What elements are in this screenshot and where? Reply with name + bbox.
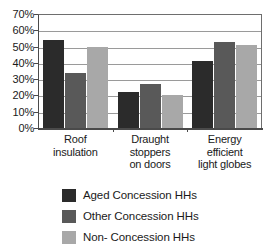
legend-label: Other Concession HHs	[83, 210, 199, 223]
y-axis-tick-label: 40%	[0, 57, 34, 68]
x-axis-label-line: insulation	[38, 146, 113, 159]
y-axis-tick-label: 30%	[0, 74, 34, 85]
y-axis-tick-label: 60%	[0, 25, 34, 36]
x-axis-label-line: stoppers	[113, 146, 188, 159]
bar-chart: 70%60%50%40%30%20%10%0% RoofinsulationDr…	[0, 0, 273, 250]
y-axis-tick-label: 50%	[0, 41, 34, 52]
y-axis-tick-label: 20%	[0, 90, 34, 101]
y-axis-tick-label: 10%	[0, 106, 34, 117]
legend-swatch-icon	[62, 210, 76, 223]
chart-legend: Aged Concession HHsOther Concession HHsN…	[0, 186, 273, 250]
x-axis-group-tick	[113, 128, 114, 132]
y-axis: 70%60%50%40%30%20%10%0%	[0, 8, 34, 134]
x-axis-label-line: Roof	[38, 133, 113, 146]
x-axis-label-line: efficient	[187, 146, 262, 159]
legend-label: Aged Concession HHs	[83, 189, 197, 202]
y-axis-tick-label: 70%	[0, 9, 34, 20]
bar[interactable]	[87, 47, 108, 128]
legend-item[interactable]: Other Concession HHs	[62, 207, 199, 225]
bar-groups	[38, 14, 262, 128]
bar-group	[187, 14, 262, 128]
legend-item[interactable]: Aged Concession HHs	[62, 186, 197, 204]
bar[interactable]	[118, 92, 139, 128]
x-axis-category-label: Draughtstopperson doors	[113, 133, 188, 181]
bar[interactable]	[214, 42, 235, 128]
bar[interactable]	[236, 45, 257, 128]
x-axis-label-line: light globes	[187, 158, 262, 171]
x-axis-labels: RoofinsulationDraughtstopperson doorsEne…	[38, 133, 262, 181]
x-axis-category-label: Energyefficientlight globes	[187, 133, 262, 181]
legend-swatch-icon	[62, 189, 76, 202]
legend-swatch-icon	[62, 231, 76, 244]
x-axis-line	[38, 128, 263, 130]
bar[interactable]	[43, 40, 64, 128]
legend-item[interactable]: Non- Concession HHs	[62, 228, 195, 246]
x-axis-label-line: on doors	[113, 158, 188, 171]
x-axis-category-label: Roofinsulation	[38, 133, 113, 181]
x-axis-group-tick	[187, 128, 188, 132]
bar[interactable]	[162, 95, 183, 128]
bar[interactable]	[192, 61, 213, 128]
x-axis-label-line: Draught	[113, 133, 188, 146]
x-axis-label-line: Energy	[187, 133, 262, 146]
plot-wrapper: 70%60%50%40%30%20%10%0% RoofinsulationDr…	[0, 0, 273, 134]
bar-group	[113, 14, 188, 128]
bar[interactable]	[65, 73, 86, 128]
bar-group	[38, 14, 113, 128]
legend-label: Non- Concession HHs	[83, 231, 195, 244]
y-axis-tick-label: 0%	[0, 123, 34, 134]
bar[interactable]	[140, 84, 161, 128]
